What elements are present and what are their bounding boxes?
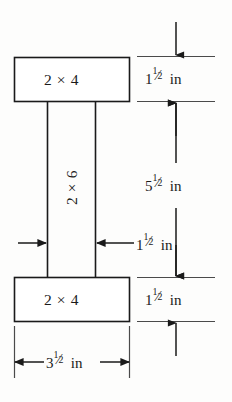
dim-whole-web-width: 1 <box>136 237 144 253</box>
diagram-canvas <box>0 0 232 402</box>
dim-whole-bottom: 1 <box>145 292 153 308</box>
top-flange-label: 2 × 4 <box>44 72 79 88</box>
dim-unit-top: in <box>170 71 182 87</box>
dim-label-overall-width: 31⁄2 in <box>46 354 82 371</box>
dim-fraction-web: 1⁄2 <box>153 177 167 191</box>
dim-label-bottom-flange-thickness: 11⁄2 in <box>145 291 181 308</box>
beam-cross-section-figure: 2 × 4 2 × 6 2 × 4 11⁄2 in 51⁄2 in 11⁄2 i… <box>0 0 232 402</box>
dim-unit-bottom: in <box>170 292 182 308</box>
dim-whole-top: 1 <box>145 71 153 87</box>
dim-fraction-web-width: 1⁄2 <box>144 236 158 250</box>
dim-whole-web: 5 <box>145 178 153 194</box>
dim-fraction-bottom: 1⁄2 <box>153 291 167 305</box>
dim-fraction-top: 1⁄2 <box>153 70 167 84</box>
dim-whole-width: 3 <box>46 355 54 371</box>
dim-unit-web: in <box>170 178 182 194</box>
web-label: 2 × 6 <box>64 170 80 205</box>
dim-label-top-flange-thickness: 11⁄2 in <box>145 70 181 87</box>
bottom-flange-label: 2 × 4 <box>44 292 79 308</box>
dim-unit-width: in <box>71 355 83 371</box>
dim-label-web-depth: 51⁄2 in <box>145 177 181 194</box>
dim-label-web-width: 11⁄2 in <box>136 236 172 253</box>
dim-fraction-width: 1⁄2 <box>54 354 68 368</box>
dim-unit-web-width: in <box>161 237 173 253</box>
